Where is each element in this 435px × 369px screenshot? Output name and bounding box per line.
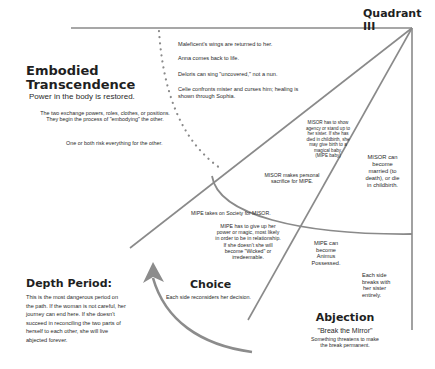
- mipe-animus-line: become: [304, 247, 348, 254]
- depth-line: abjected forever.: [26, 336, 126, 345]
- mipe-animus-line: MIPE can: [304, 240, 348, 247]
- misor-show-line: (MIPE baby): [292, 153, 364, 159]
- choice-heading: Choice: [190, 278, 231, 291]
- misor-show-agency: MISOR has to show agency or stand up to …: [292, 120, 364, 159]
- depth-heading: Depth Period:: [26, 277, 112, 290]
- misor-married: MISOR can become married (to death), or …: [355, 154, 410, 189]
- misor-sacrifice: MISOR makes personal sacrifice for MIPE.: [252, 172, 332, 184]
- embodied-desc-2: One or both risk everything for the othe…: [66, 140, 162, 146]
- mipe-society: MIPE takes on Society for MISOR.: [191, 210, 271, 216]
- choice-desc: Each side reconsiders her decision.: [166, 294, 251, 300]
- mipe-give-up: MIPE has to give up her power or magic, …: [203, 223, 293, 260]
- embodied-subtitle: Power in the body is restored.: [29, 92, 135, 102]
- diagonal-line-long: [130, 28, 412, 248]
- quadrant-title: Quadrant III: [363, 7, 435, 33]
- each-side-line: entirely.: [362, 292, 390, 299]
- example-celie-1: Celie confronts mister and curses him; h…: [178, 86, 298, 93]
- abjection-desc: Something threatens to make the break pe…: [285, 336, 405, 348]
- misor-married-line: become: [355, 161, 410, 168]
- example-maleficent: Maleficent's wings are returned to her.: [178, 41, 272, 48]
- example-celie-2: shown through Sophia.: [178, 93, 298, 100]
- depth-desc: This is the most dangerous period on the…: [26, 293, 126, 345]
- example-deloris: Deloris can sing "uncovered," not a nun.: [178, 71, 277, 78]
- embodied-desc-1b: They begin the process of "embodying" th…: [30, 116, 180, 122]
- mipe-animus-line: Animus: [304, 253, 348, 260]
- depth-line: the path. If the woman is not careful, h…: [26, 302, 126, 311]
- each-side-line: her sister: [362, 285, 390, 292]
- depth-line: herself to each other, she will live: [26, 327, 126, 336]
- misor-married-line: in childbirth.: [355, 182, 410, 189]
- example-anna: Anna comes back to life.: [178, 55, 239, 62]
- depth-line: succeed in reconciling the two parts of: [26, 319, 126, 328]
- each-side-line: Each side: [362, 272, 390, 279]
- depth-line: This is the most dangerous period on: [26, 293, 126, 302]
- abjection-subtitle: "Break the Mirror": [290, 327, 400, 335]
- abjection-heading: Abjection: [290, 311, 400, 324]
- each-side-line: breaks with: [362, 279, 390, 286]
- depth-line: journey can end here. If she doesn't: [26, 310, 126, 319]
- embodied-heading-2: Transcendence: [26, 77, 135, 93]
- mipe-animus: MIPE can become Animus Possessed.: [304, 240, 348, 267]
- mipe-give-up-line: irredeemable.: [203, 254, 293, 260]
- misor-married-line: married (to: [355, 168, 410, 175]
- abjection-desc-2: the break permanent.: [285, 342, 405, 348]
- misor-married-line: death), or die: [355, 175, 410, 182]
- misor-married-line: MISOR can: [355, 154, 410, 161]
- misor-sacrifice-line: sacrifice for MIPE.: [252, 178, 332, 184]
- each-side-breaks: Each side breaks with her sister entirel…: [362, 272, 390, 299]
- dotted-arc: [159, 31, 220, 168]
- embodied-desc-1: The two exchange powers, roles, clothes,…: [30, 110, 180, 123]
- example-celie: Celie confronts mister and curses him; h…: [178, 86, 298, 99]
- mipe-give-up-line: in order to be in relationship.: [203, 235, 293, 241]
- mipe-animus-line: Possessed.: [304, 260, 348, 267]
